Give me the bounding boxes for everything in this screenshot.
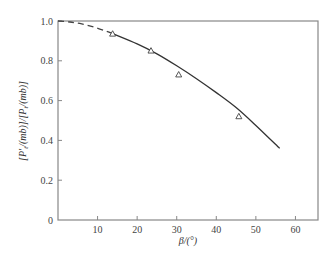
triangle-marker-icon: [148, 48, 154, 53]
triangle-marker-icon: [236, 113, 242, 118]
x-tick-label: 10: [93, 224, 103, 235]
x-axis-label: β/(°): [178, 235, 198, 247]
y-tick-label: 0.4: [41, 135, 54, 146]
plot-border: [58, 21, 318, 220]
x-tick-label: 30: [172, 224, 182, 235]
plot-frame: [58, 21, 318, 220]
chart: 102030405060 00.20.40.60.81.0 β/(°) [P′t…: [0, 0, 336, 258]
x-tick-label: 40: [211, 224, 221, 235]
y-tick-label: 0.8: [41, 55, 54, 66]
y-axis-ticks: 00.20.40.60.81.0: [41, 16, 63, 226]
y-tick-label: 0: [48, 215, 53, 226]
data-series: [58, 21, 280, 148]
y-tick-label: 0.2: [41, 175, 54, 186]
curve-extrapolated-dashed: [58, 21, 113, 34]
y-axis-label: [P′t/(mb)]/[Pt/(mb)]: [17, 81, 30, 161]
x-tick-label: 20: [132, 224, 142, 235]
x-tick-label: 50: [251, 224, 261, 235]
triangle-marker-icon: [176, 72, 182, 77]
curve-fitted: [113, 34, 279, 148]
y-tick-label: 0.6: [41, 95, 54, 106]
x-axis-ticks: 102030405060: [93, 216, 301, 235]
x-tick-label: 60: [290, 224, 300, 235]
y-tick-label: 1.0: [41, 16, 54, 27]
